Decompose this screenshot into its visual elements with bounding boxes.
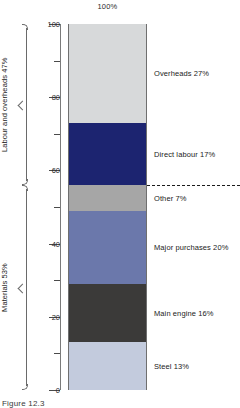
y-axis-line [60, 24, 61, 390]
y-tick-label-40: 40 [34, 239, 60, 248]
segment-label-steel: Steel 13% [154, 362, 189, 371]
bar-segment-direct-labour [69, 123, 146, 185]
segment-label-direct-labour: Direct labour 17% [154, 149, 215, 158]
stacked-bar [68, 24, 147, 390]
bar-segment-other [69, 185, 146, 211]
y-tick-minor-30 [54, 280, 60, 281]
dashed-divider [147, 185, 240, 186]
y-tick-minor-70 [54, 134, 60, 135]
bracket-materials [19, 185, 28, 390]
segment-label-main-engine: Main engine 16% [154, 309, 213, 318]
segment-label-other: Other 7% [154, 193, 186, 202]
segment-label-overheads: Overheads 27% [154, 69, 209, 78]
y-tick-label-60: 60 [34, 166, 60, 175]
figure-caption: Figure 12.3 [2, 399, 45, 408]
y-tick-label-0: 0 [34, 386, 60, 395]
group-label-materials: Materials 53% [0, 185, 16, 390]
segment-label-major-purchases: Major purchases 20% [154, 243, 228, 252]
y-tick-label-20: 20 [34, 312, 60, 321]
y-tick-minor-50 [54, 207, 60, 208]
y-tick-minor-10 [54, 353, 60, 354]
y-tick-label-80: 80 [34, 93, 60, 102]
bar-segment-steel [69, 342, 146, 390]
bar-segment-major-purchases [69, 211, 146, 284]
bracket-labour-and-overheads [19, 24, 28, 185]
y-tick-label-100: 100 [34, 20, 60, 29]
stacked-bar-chart: 100% 020406080100 Steel 13%Main engine 1… [0, 0, 240, 408]
y-tick-minor-90 [54, 61, 60, 62]
bar-segment-overheads [69, 24, 146, 123]
bar-segment-main-engine [69, 284, 146, 343]
chart-title: 100% [68, 2, 147, 11]
group-label-labour-and-overheads: Labour and overheads 47% [0, 24, 16, 185]
